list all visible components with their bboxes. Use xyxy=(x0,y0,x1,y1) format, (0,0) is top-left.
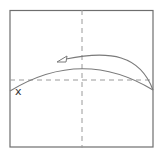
origami-diagram xyxy=(0,0,162,159)
point-label-x: x xyxy=(15,86,22,98)
